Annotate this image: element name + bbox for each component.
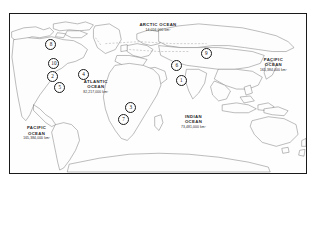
landmass-central-america — [34, 105, 56, 127]
map-marker: 1 — [176, 75, 187, 86]
map-marker: 6 — [171, 60, 182, 71]
landmass-canadian-arctic — [54, 22, 94, 31]
map-frame: ARCTIC OCEAN 14,056,000 km² ATLANTIC OCE… — [9, 13, 307, 174]
landmass-australia — [250, 117, 298, 147]
map-marker: 2 — [47, 71, 58, 82]
map-landmass-outlines — [10, 14, 306, 173]
landmass-japan — [264, 61, 276, 79]
landmass-greenland — [93, 24, 121, 54]
landmass-europe — [127, 44, 153, 58]
landmass-india — [185, 69, 207, 99]
landmass-indonesia — [223, 103, 257, 113]
landmass-madagascar — [155, 115, 163, 131]
landmass-new-guinea — [264, 107, 288, 116]
landmass-antarctica — [68, 153, 271, 172]
world-map-figure: ARCTIC OCEAN 14,056,000 km² ATLANTIC OCE… — [0, 0, 316, 225]
